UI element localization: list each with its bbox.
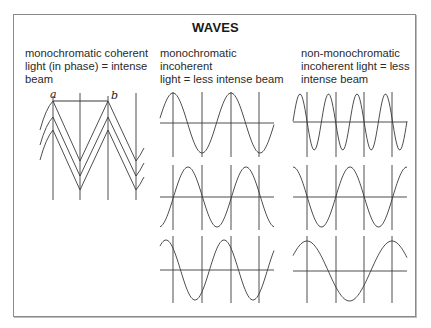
label-b: b	[111, 89, 118, 102]
waves-diagram: a b	[0, 0, 431, 328]
panel-coherent	[40, 93, 144, 200]
label-a: a	[50, 88, 57, 101]
panel-non-mono-incoherent	[293, 92, 407, 303]
panel-mono-incoherent	[160, 92, 274, 303]
